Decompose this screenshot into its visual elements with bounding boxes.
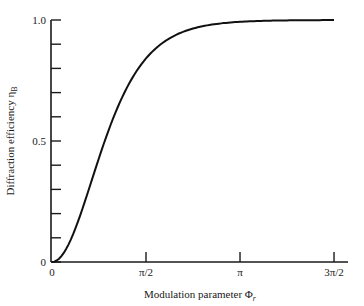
x-tick-label: 3π/2 [324, 266, 344, 278]
y-ticks: 00.51.0 [32, 14, 61, 268]
y-axis-title: Diffraction efficiency ηB [4, 86, 19, 195]
y-tick-label: 0 [41, 256, 47, 268]
x-tick-label: 0 [49, 266, 55, 278]
chart: 00.51.0 0π/2π3π/2 Modulation parameter Φ… [0, 0, 364, 306]
efficiency-curve [52, 20, 334, 262]
x-tick-label: π/2 [139, 266, 153, 278]
x-axis-title: Modulation parameter Φr [144, 288, 257, 303]
y-tick-label: 0.5 [32, 135, 46, 147]
y-tick-label: 1.0 [32, 14, 46, 26]
x-ticks: 0π/2π3π/2 [49, 252, 344, 278]
axes [51, 20, 348, 262]
x-tick-label: π [237, 266, 243, 278]
